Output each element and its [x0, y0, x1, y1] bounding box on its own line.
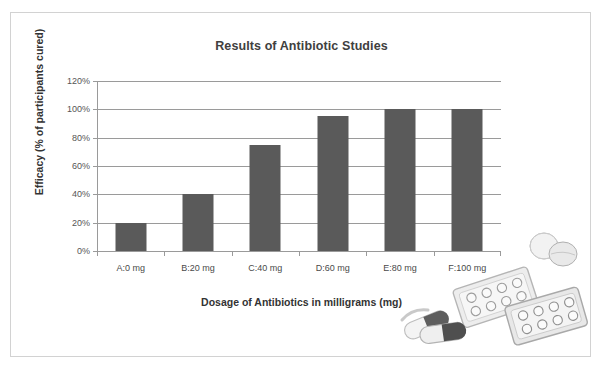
- y-tick-label: 60%: [72, 161, 90, 171]
- x-tick-label: E:80 mg: [383, 263, 417, 273]
- bar-slot: [97, 81, 164, 251]
- bar[interactable]: [182, 194, 213, 251]
- y-axis-title: Efficacy (% of participants cured): [33, 22, 45, 202]
- bar-slot: [232, 81, 299, 251]
- x-tick-label: B:20 mg: [181, 263, 215, 273]
- y-tick-label: 40%: [72, 189, 90, 199]
- x-tick-mark: [97, 252, 98, 256]
- bar-slot: [299, 81, 366, 251]
- y-tick-label: 20%: [72, 218, 90, 228]
- bar-slot: [434, 81, 501, 251]
- x-axis-title: Dosage of Antibiotics in milligrams (mg): [11, 296, 592, 308]
- x-tick-label: D:60 mg: [316, 263, 350, 273]
- x-tick-mark: [232, 252, 233, 256]
- x-tick-label: F:100 mg: [448, 263, 486, 273]
- plot-area: 0%20%40%60%80%100%120% A:0 mgB:20 mgC:40…: [97, 81, 501, 251]
- chart-frame: Results of Antibiotic Studies Efficacy (…: [10, 12, 591, 357]
- x-tick-label: C:40 mg: [248, 263, 282, 273]
- chart-page: Results of Antibiotic Studies Efficacy (…: [0, 0, 603, 371]
- bar[interactable]: [452, 109, 483, 251]
- bar-slot: [366, 81, 433, 251]
- bar[interactable]: [384, 109, 415, 251]
- x-tick-mark: [434, 252, 435, 256]
- x-tick-mark: [164, 252, 165, 256]
- bar[interactable]: [250, 145, 281, 251]
- y-tick-label: 120%: [67, 76, 90, 86]
- bar[interactable]: [317, 116, 348, 251]
- y-tick-label: 100%: [67, 104, 90, 114]
- x-tick-label: A:0 mg: [116, 263, 145, 273]
- bar-slot: [164, 81, 231, 251]
- bar[interactable]: [115, 223, 146, 251]
- bars-layer: [97, 81, 501, 251]
- x-tick-mark: [299, 252, 300, 256]
- x-tick-mark: [366, 252, 367, 256]
- y-tick-label: 80%: [72, 133, 90, 143]
- y-tick-label: 0%: [77, 246, 90, 256]
- x-tick-mark: [500, 252, 501, 256]
- chart-title: Results of Antibiotic Studies: [11, 39, 592, 53]
